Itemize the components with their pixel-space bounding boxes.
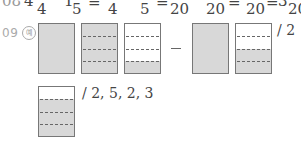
- fraction-box-6: [38, 86, 75, 137]
- fraction-box-5: [235, 23, 272, 74]
- fraction-box-1: [38, 23, 75, 74]
- answer-row1: / 2: [277, 22, 295, 38]
- example-marker-icon: 예: [22, 26, 36, 40]
- fraction-box-4: [192, 23, 229, 74]
- fraction-box-2: [81, 23, 118, 74]
- prev-question-number: 08: [2, 0, 21, 9]
- previous-answer-line: 08 4 4 1 5 = 4 5 = 20 20 = 20 = 3 20: [0, 0, 301, 14]
- answer-row2: / 2, 5, 2, 3: [82, 85, 154, 101]
- fraction-box-3: [124, 23, 161, 74]
- minus-sign: [171, 48, 181, 49]
- question-number: 09: [2, 26, 18, 40]
